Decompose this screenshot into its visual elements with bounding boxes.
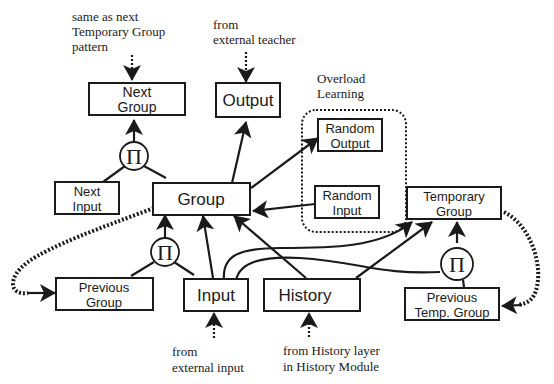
node-previous-group[interactable]: Previous Group	[56, 278, 153, 310]
product-node-group: Π	[151, 238, 179, 266]
svg-text:Π: Π	[157, 240, 173, 265]
node-next-input[interactable]: Next Input	[55, 182, 119, 214]
svg-text:in History Module: in History Module	[283, 359, 379, 374]
svg-text:Overload: Overload	[317, 71, 366, 86]
edge-random-input-to-group	[253, 204, 315, 211]
edge-group-to-pi-top	[144, 166, 166, 178]
svg-text:Random: Random	[325, 121, 374, 136]
svg-text:Input: Input	[197, 286, 235, 305]
svg-text:Previous: Previous	[79, 280, 130, 295]
svg-text:Next: Next	[123, 84, 152, 100]
svg-text:external teacher: external teacher	[213, 32, 296, 47]
svg-text:Group: Group	[177, 190, 224, 209]
svg-text:Temporary Group: Temporary Group	[72, 24, 165, 39]
svg-text:Learning: Learning	[317, 86, 364, 101]
edge-group-to-random-output	[251, 138, 318, 188]
svg-text:Random: Random	[322, 188, 371, 203]
svg-text:Group: Group	[86, 295, 122, 310]
edge-previous-temp-group-to-pi	[463, 280, 464, 287]
svg-text:Π: Π	[126, 144, 142, 169]
svg-text:Next: Next	[74, 184, 101, 199]
edge-temp-to-prev-temp-head	[502, 305, 522, 306]
annotation-next-group-source: same as next Temporary Group pattern	[72, 9, 165, 54]
svg-text:Π: Π	[449, 252, 465, 277]
annotation-overload-learning: Overload Learning	[317, 71, 366, 101]
node-random-output[interactable]: Random Output	[318, 119, 382, 151]
svg-text:Temp. Group: Temp. Group	[414, 305, 489, 320]
annotation-input-source: from external input	[172, 344, 244, 375]
product-node-next-group: Π	[120, 142, 148, 170]
diagram-canvas: same as next Temporary Group pattern fro…	[0, 0, 554, 384]
edge-input-to-pi-right	[236, 258, 440, 280]
node-output[interactable]: Output	[216, 83, 280, 117]
edge-input-to-group	[203, 216, 213, 278]
node-input[interactable]: Input	[184, 279, 248, 311]
svg-text:Group: Group	[436, 204, 472, 219]
svg-text:Group: Group	[118, 99, 157, 115]
svg-text:Input: Input	[73, 199, 102, 214]
svg-text:from: from	[213, 17, 238, 32]
node-group[interactable]: Group	[153, 183, 250, 215]
svg-text:external input: external input	[172, 360, 244, 375]
node-temporary-group[interactable]: Temporary Group	[407, 187, 501, 219]
svg-text:from History layer: from History layer	[283, 343, 380, 358]
edge-history-to-temporary-group	[356, 222, 432, 278]
edge-next-input-to-pi	[103, 166, 125, 182]
svg-text:Output: Output	[222, 91, 273, 110]
node-next-group[interactable]: Next Group	[89, 83, 185, 115]
product-node-temporary-group: Π	[441, 248, 473, 280]
svg-text:History: History	[279, 286, 332, 305]
node-previous-temp-group[interactable]: Previous Temp. Group	[405, 288, 499, 320]
svg-text:from: from	[172, 344, 197, 359]
node-history[interactable]: History	[264, 279, 360, 311]
node-random-input[interactable]: Random Input	[315, 186, 379, 218]
svg-text:pattern: pattern	[72, 39, 109, 54]
edge-temporary-group-to-previous-temp-group	[504, 212, 538, 305]
svg-text:Temporary: Temporary	[423, 189, 485, 204]
svg-text:Previous: Previous	[427, 290, 478, 305]
edge-previous-group-to-pi	[131, 262, 154, 276]
edge-group-to-output	[232, 122, 246, 183]
svg-text:Input: Input	[333, 203, 362, 218]
annotation-output-source: from external teacher	[213, 17, 296, 47]
svg-text:Output: Output	[330, 136, 369, 151]
annotation-history-source: from History layer in History Module	[283, 343, 380, 374]
edge-input-to-pi	[174, 262, 194, 275]
svg-text:same as next: same as next	[72, 9, 139, 24]
